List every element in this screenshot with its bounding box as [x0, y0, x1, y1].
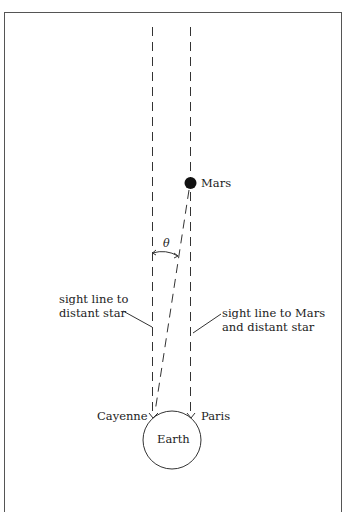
right-sight-line-label-2: and distant star — [222, 320, 314, 334]
left-sight-line-label-2: distant star — [59, 306, 126, 320]
left-sight-line-label-1: sight line to — [59, 292, 128, 306]
sight-line-cayenne-to-mars — [155, 190, 189, 412]
leader-left-label — [123, 311, 152, 327]
right-sight-line-label-1: sight line to Mars — [222, 306, 325, 320]
mars-dot — [185, 177, 197, 189]
arc-arrowhead-right — [174, 253, 178, 258]
leader-right-label — [193, 314, 221, 333]
theta-label: θ — [163, 237, 170, 251]
earth-label: Earth — [157, 432, 190, 446]
cayenne-label: Cayenne — [97, 409, 148, 423]
mars-label: Mars — [201, 176, 231, 190]
theta-angle-arc — [153, 252, 179, 256]
paris-label: Paris — [201, 409, 230, 423]
